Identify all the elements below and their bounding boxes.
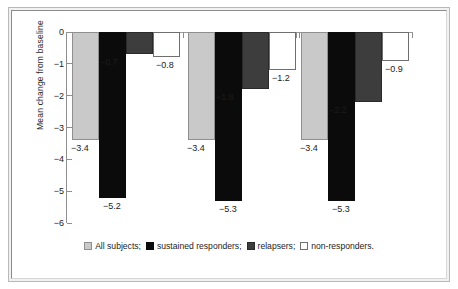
- y-axis-tick: −5: [44, 186, 72, 196]
- y-axis-tick-label: −6: [54, 218, 64, 228]
- y-axis-tick: −3: [44, 123, 72, 133]
- bar-value-non-responders-group3: −0.9: [385, 64, 403, 74]
- bar-relapsers-group3: [355, 32, 382, 102]
- bar-non-responders-group1: [153, 32, 180, 57]
- group-separator-tick: [183, 32, 184, 38]
- y-axis-tick-label: 0: [59, 27, 64, 37]
- bar-value-relapsers-group2: −1.8: [216, 92, 234, 102]
- y-axis-tick: −1: [44, 59, 72, 69]
- bar-value-non-responders-group2: −1.2: [272, 73, 290, 83]
- bar-value-sustained-responders-group2: −5.3: [219, 204, 237, 214]
- bar-non-responders-group3: [382, 32, 409, 61]
- legend-swatch-icon: [146, 242, 154, 250]
- y-axis-tick-mark: [67, 223, 72, 224]
- bar-value-sustained-responders-group3: −5.3: [332, 204, 350, 214]
- bar-value-relapsers-group1: −0.7: [100, 57, 118, 67]
- chart-legend: All subjects;sustained responders;relaps…: [0, 241, 458, 251]
- legend-item-all-subjects[interactable]: All subjects;: [84, 241, 141, 251]
- y-axis-tick: −2: [44, 91, 72, 101]
- legend-item-relapsers[interactable]: relapsers;: [247, 241, 296, 251]
- y-axis-tick-label: −5: [54, 186, 64, 196]
- y-axis-tick: −6: [44, 218, 72, 228]
- group-separator-tick: [299, 32, 300, 38]
- legend-item-sustained-responders[interactable]: sustained responders;: [146, 241, 242, 251]
- bar-value-relapsers-group3: −2.2: [329, 105, 347, 115]
- bar-value-all-subjects-group1: −3.4: [71, 143, 89, 153]
- y-axis-tick: −4: [44, 154, 72, 164]
- bar-all-subjects-group2: [188, 32, 215, 140]
- bar-sustained-responders-group2: [215, 32, 242, 201]
- y-axis-tick-label: −3: [54, 123, 64, 133]
- bar-value-all-subjects-group3: −3.4: [300, 143, 318, 153]
- y-axis-tick: 0: [44, 27, 72, 37]
- bar-all-subjects-group1: [72, 32, 99, 140]
- y-axis-tick-label: −1: [54, 59, 64, 69]
- bar-value-all-subjects-group2: −3.4: [187, 143, 205, 153]
- legend-swatch-icon: [247, 242, 255, 250]
- legend-label: relapsers;: [258, 241, 296, 251]
- y-axis-tick-mark: [67, 191, 72, 192]
- legend-label: sustained responders;: [157, 241, 242, 251]
- legend-swatch-icon: [300, 242, 308, 250]
- bar-all-subjects-group3: [301, 32, 328, 140]
- legend-label: All subjects;: [95, 241, 141, 251]
- group-separator-tick: [412, 32, 413, 38]
- y-axis-tick-label: −2: [54, 91, 64, 101]
- bar-value-non-responders-group1: −0.8: [156, 60, 174, 70]
- legend-swatch-icon: [84, 242, 92, 250]
- bar-sustained-responders-group3: [328, 32, 355, 201]
- figure-frame: Mean change from baseline 0−1−2−3−4−5−6 …: [0, 0, 458, 289]
- group-separator-tick: [296, 32, 297, 38]
- y-axis-tick-mark: [67, 159, 72, 160]
- bar-non-responders-group2: [269, 32, 296, 70]
- legend-label: non-responders.: [311, 241, 374, 251]
- bar-relapsers-group2: [242, 32, 269, 89]
- bar-value-sustained-responders-group1: −5.2: [103, 201, 121, 211]
- y-axis-tick-label: −4: [54, 154, 64, 164]
- bar-relapsers-group1: [126, 32, 153, 54]
- legend-item-non-responders[interactable]: non-responders.: [300, 241, 374, 251]
